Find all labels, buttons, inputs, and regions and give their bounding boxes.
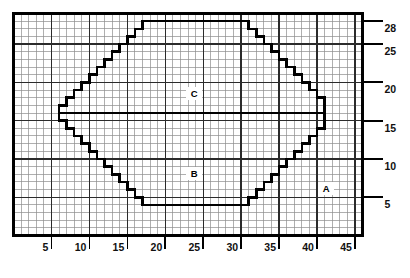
x-tick-label: 45 (340, 241, 352, 253)
x-tick-label: 20 (151, 241, 163, 253)
x-tick-label: 10 (75, 241, 87, 253)
chart-container: CBA5101520253035404551015202528 (0, 0, 410, 278)
region-label-a: A (323, 183, 330, 194)
y-tick-label: 20 (385, 83, 397, 95)
x-tick-label: 35 (264, 241, 276, 253)
y-tick-label: 25 (385, 45, 397, 57)
x-tick-label: 40 (302, 241, 314, 253)
y-tick-label: 10 (385, 160, 397, 172)
x-tick-label: 5 (43, 241, 49, 253)
y-axis-ticks (363, 21, 383, 197)
x-tick-label: 25 (188, 241, 200, 253)
region-label-b: B (191, 168, 198, 179)
y-tick-label: 5 (385, 198, 391, 210)
grid-chart: CBA5101520253035404551015202528 (0, 0, 410, 278)
y-tick-label: 28 (385, 22, 397, 34)
x-tick-label: 15 (113, 241, 125, 253)
x-tick-label: 30 (226, 241, 238, 253)
region-label-c: C (191, 88, 198, 99)
y-tick-label: 15 (385, 122, 397, 134)
